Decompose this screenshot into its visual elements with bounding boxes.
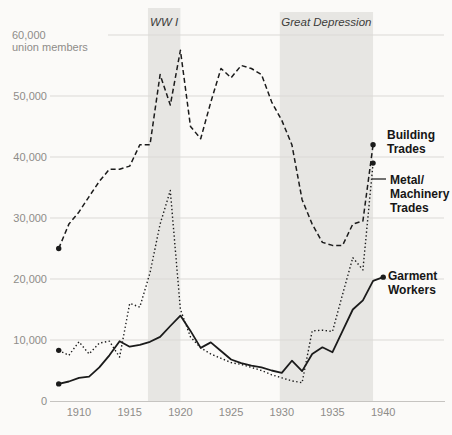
- series-label-garment-workers-line1: Garment: [388, 269, 437, 283]
- x-tick-label-1920: 1920: [168, 406, 192, 418]
- y-tick-label-40000: 40,000: [13, 151, 47, 163]
- series-end-dot-metal-machinery-trades: [370, 160, 375, 165]
- series-label-building-trades-line2: Trades: [387, 142, 426, 156]
- annotation-band-ww1: [148, 8, 180, 401]
- series-start-dot-building-trades: [56, 246, 61, 251]
- series-start-dot-metal-machinery-trades: [56, 348, 61, 353]
- x-tick-label-1940: 1940: [371, 406, 395, 418]
- series-label-building-trades-line1: Building: [387, 128, 435, 142]
- y-axis-header-unit: union members: [12, 41, 88, 53]
- y-tick-label-20000: 20,000: [13, 273, 47, 285]
- y-tick-label-50000: 50,000: [13, 90, 47, 102]
- x-tick-label-1910: 1910: [67, 406, 91, 418]
- y-axis-header-value: 60,000: [12, 29, 46, 41]
- series-start-dot-garment-workers: [56, 381, 61, 386]
- annotation-label-ww1: WW I: [150, 16, 179, 28]
- x-tick-label-1935: 1935: [320, 406, 344, 418]
- annotation-band-great-depression: [280, 12, 373, 401]
- chart-svg: WW IGreat Depression010,00020,00030,0004…: [0, 0, 452, 435]
- y-tick-label-10000: 10,000: [13, 334, 47, 346]
- series-label-metal-machinery-trades-line2: Machinery: [390, 187, 450, 201]
- x-tick-label-1915: 1915: [117, 406, 141, 418]
- y-tick-label-30000: 30,000: [13, 212, 47, 224]
- series-label-metal-machinery-trades-line1: Metal/: [390, 173, 425, 187]
- series-label-garment-workers-line2: Workers: [388, 283, 436, 297]
- x-tick-label-1930: 1930: [270, 406, 294, 418]
- union-membership-chart: WW IGreat Depression010,00020,00030,0004…: [0, 0, 452, 435]
- series-end-dot-building-trades: [370, 142, 375, 147]
- series-end-dot-garment-workers: [381, 274, 386, 279]
- series-label-metal-machinery-trades-line3: Trades: [390, 201, 429, 215]
- y-tick-label-0: 0: [41, 395, 47, 407]
- annotation-label-great-depression: Great Depression: [281, 16, 371, 28]
- x-tick-label-1925: 1925: [219, 406, 243, 418]
